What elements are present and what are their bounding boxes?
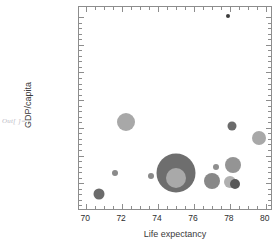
x-tick-label: 78	[224, 213, 233, 223]
x-tick-label: 70	[80, 213, 89, 223]
axis-tick-labels: 0500010 00015 00020 00025 00030 00035 00…	[0, 0, 280, 246]
x-tick-label: 80	[260, 213, 269, 223]
notebook-output-cell: Out[ ]= GDP/capita Life expectancy 05000…	[0, 0, 280, 246]
x-tick-label: 76	[188, 213, 197, 223]
x-tick-label: 72	[116, 213, 125, 223]
x-tick-label: 74	[152, 213, 161, 223]
